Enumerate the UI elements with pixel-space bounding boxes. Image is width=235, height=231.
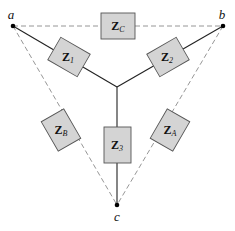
node-a-label: a	[8, 7, 15, 22]
impedance-za: ZA	[150, 109, 190, 151]
node-b-label: b	[219, 7, 226, 22]
impedance-zc: ZC	[101, 13, 135, 39]
impedance-z2-sub: 2	[169, 56, 173, 65]
impedance-z3-label: Z	[111, 138, 119, 152]
impedance-z3-sub: 3	[118, 144, 123, 153]
node-c-dot	[115, 203, 120, 208]
impedance-z1: Z1	[48, 37, 90, 77]
impedance-z2-label: Z	[161, 50, 169, 64]
node-b-dot	[221, 24, 226, 29]
impedance-za-label: Z	[164, 123, 172, 137]
node-a-dot	[11, 24, 16, 29]
node-c-label: c	[114, 209, 120, 224]
impedance-zb-sub: B	[63, 129, 68, 138]
impedance-z1-label: Z	[62, 50, 70, 64]
impedance-z3: Z3	[104, 127, 131, 163]
impedance-z1-sub: 1	[70, 56, 74, 65]
impedance-zc-label: Z	[111, 19, 119, 33]
delta-network	[13, 26, 223, 205]
impedance-zb-label: Z	[55, 123, 63, 137]
y-delta-diagram: ZC Z1 Z2 ZB ZA	[0, 0, 235, 231]
impedance-zc-sub: C	[119, 25, 125, 34]
impedance-z2: Z2	[147, 37, 189, 77]
impedance-zb: ZB	[41, 109, 81, 151]
impedance-za-sub: A	[171, 129, 177, 138]
wye-network	[13, 26, 223, 205]
